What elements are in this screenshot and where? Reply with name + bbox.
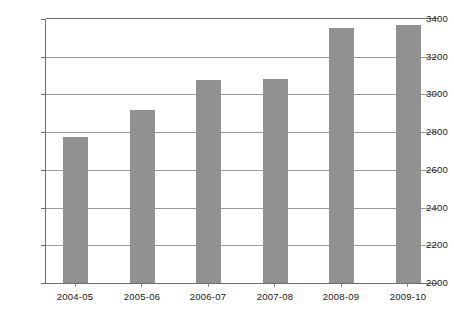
x-axis-label-2009-10: 2009-10 — [373, 291, 443, 302]
x-axis-tick — [274, 284, 275, 287]
y-axis-tick-label: 2800 — [410, 127, 454, 137]
y-axis-tick — [41, 245, 46, 246]
x-axis-label-2008-09: 2008-09 — [306, 291, 376, 302]
x-axis-label-2006-07: 2006-07 — [173, 291, 243, 302]
bar-2006-07[interactable] — [196, 80, 221, 283]
x-axis-tick — [341, 284, 342, 287]
y-axis-tick-label: 3000 — [410, 89, 454, 99]
x-axis-tick — [407, 284, 408, 287]
bar-chart: 3400 3200 3000 2800 2600 2400 2200 2000 — [0, 0, 454, 317]
y-axis-tick-label: 2400 — [410, 203, 454, 213]
x-axis-tick — [208, 284, 209, 287]
y-axis-tick — [41, 208, 46, 209]
x-axis-tick — [75, 284, 76, 287]
x-axis-label-2005-06: 2005-06 — [107, 291, 177, 302]
bar-2005-06[interactable] — [130, 110, 155, 283]
bar-2007-08[interactable] — [263, 79, 288, 283]
y-axis-tick-label: 2600 — [410, 165, 454, 175]
y-axis-tick — [41, 170, 46, 171]
y-axis-tick-label: 3200 — [410, 52, 454, 62]
bar-2004-05[interactable] — [63, 137, 88, 283]
y-axis-tick-label: 3400 — [410, 14, 454, 24]
y-axis-tick — [41, 57, 46, 58]
x-axis-tick — [141, 284, 142, 287]
bar-2008-09[interactable] — [329, 28, 354, 283]
y-axis-tick — [41, 19, 46, 20]
x-axis-label-2004-05: 2004-05 — [40, 291, 110, 302]
plot-area — [45, 19, 438, 284]
y-axis-tick — [41, 283, 46, 284]
y-axis-tick — [41, 132, 46, 133]
y-axis-tick-label: 2000 — [410, 278, 454, 288]
bars-layer — [46, 19, 438, 283]
y-axis-tick-label: 2200 — [410, 240, 454, 250]
x-axis-label-2007-08: 2007-08 — [240, 291, 310, 302]
y-axis-tick — [41, 94, 46, 95]
